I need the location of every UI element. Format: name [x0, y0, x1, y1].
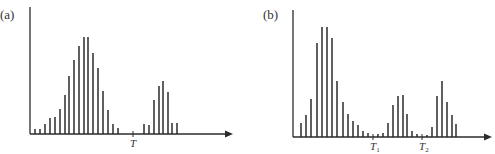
panel-b-histogram: (b)T1T2: [263, 7, 492, 154]
threshold-label: T: [130, 137, 137, 149]
x-axis-arrow-icon: [484, 134, 492, 141]
threshold-label: T2: [419, 140, 429, 154]
x-axis-arrow-icon: [225, 131, 233, 138]
panel-label: (b): [263, 7, 278, 22]
histogram-figure: (a)T (b)T1T2: [0, 0, 495, 154]
panel-label: (a): [0, 7, 14, 22]
threshold-label: T1: [370, 140, 380, 154]
panel-a-histogram: (a)T: [0, 7, 233, 149]
